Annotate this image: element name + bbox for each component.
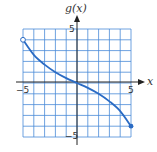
y-tick-neg5: −5 xyxy=(65,132,78,141)
x-axis-label: x xyxy=(147,76,153,87)
open-endpoint xyxy=(21,37,26,42)
y-tick-5: 5 xyxy=(69,25,75,34)
y-axis-arrow-icon xyxy=(74,15,80,22)
function-graph xyxy=(0,0,157,152)
x-axis-arrow-icon xyxy=(138,79,145,85)
axes xyxy=(16,15,145,145)
y-axis-label: g(x) xyxy=(65,3,87,14)
closed-endpoint xyxy=(129,124,134,129)
x-tick-5: 5 xyxy=(128,86,134,95)
x-tick-neg5: −5 xyxy=(16,86,29,95)
